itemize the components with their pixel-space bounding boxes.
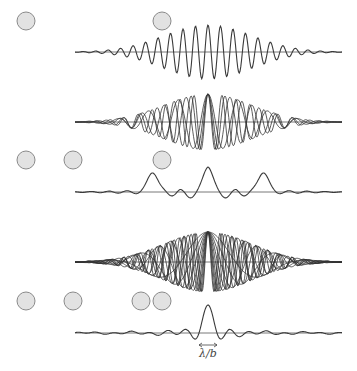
slit-circle: [153, 151, 171, 169]
slit-circle: [17, 151, 35, 169]
sum-curve: [75, 167, 342, 198]
slit-circle: [153, 12, 171, 30]
fringe-curve: [75, 232, 342, 284]
diffraction-diagram: [0, 0, 357, 371]
fringe-curve: [75, 232, 342, 277]
slit-circle: [132, 292, 150, 310]
lambda-over-b-label: λ/b: [199, 347, 217, 360]
sinc-curve: [75, 305, 342, 339]
slit-circle: [17, 12, 35, 30]
slit-circle: [64, 292, 82, 310]
slit-circle: [153, 292, 171, 310]
slit-circle: [17, 292, 35, 310]
slit-circle: [64, 151, 82, 169]
interference-curves: [75, 25, 342, 339]
